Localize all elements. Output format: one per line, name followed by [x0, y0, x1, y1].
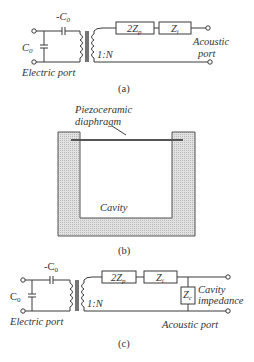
electric-port-terminal-top-c: [21, 278, 25, 282]
cavity-impedance-label-line2: impedance: [198, 295, 244, 306]
acoustic-port-label-a-line2: port: [197, 48, 217, 59]
cavity-label: Cavity: [100, 202, 128, 213]
shunt-capacitor-c: [28, 280, 36, 311]
transformer-ratio-label-c: 1:N: [87, 298, 104, 309]
acoustic-port-terminal-top: [206, 26, 210, 30]
diaphragm-leader-line: [112, 126, 126, 135]
panel-a-circuit: [32, 22, 212, 64]
series-capacitor-label-c: -C0: [44, 261, 59, 274]
figure: -C0 C0 1:N 2Zp Zi Acoustic port Electric…: [0, 0, 254, 362]
transformer: [80, 31, 94, 62]
panel-b-caption: (b): [118, 245, 131, 257]
diaphragm-label-line2: diaphragm: [75, 116, 122, 127]
acoustic-port-label-a: Acoustic: [192, 36, 229, 47]
shunt-capacitor-label: C0: [22, 42, 33, 55]
electric-port-terminal-top: [32, 29, 36, 33]
panel-a-caption: (a): [118, 83, 130, 95]
shunt-capacitor-label-c: C0: [10, 291, 21, 304]
cavity-impedance-label-line1: Cavity: [198, 284, 226, 295]
cavity-wall: [58, 132, 195, 236]
electric-port-terminal-bottom: [32, 60, 36, 64]
acoustic-port-terminal-bottom-c: [226, 309, 230, 313]
transformer-ratio-label: 1:N: [97, 49, 114, 60]
electric-port-terminal-bottom-c: [21, 309, 25, 313]
acoustic-port-label-c: Acoustic port: [161, 319, 219, 330]
series-capacitor-label: -C0: [56, 11, 71, 24]
electric-port-label-a: Electric port: [21, 67, 76, 78]
panel-b-cavity: [58, 126, 195, 236]
transformer-c: [70, 280, 84, 311]
panel-c-caption: (c): [118, 338, 130, 350]
electric-port-label-c: Electric port: [9, 316, 64, 327]
shunt-capacitor: [40, 31, 48, 62]
acoustic-port-terminal-bottom: [208, 60, 212, 64]
acoustic-port-terminal-top-c: [226, 275, 230, 279]
series-capacitor-c: [50, 276, 53, 284]
series-capacitor: [62, 27, 65, 35]
diaphragm-label-line1: Piezoceramic: [74, 104, 132, 115]
